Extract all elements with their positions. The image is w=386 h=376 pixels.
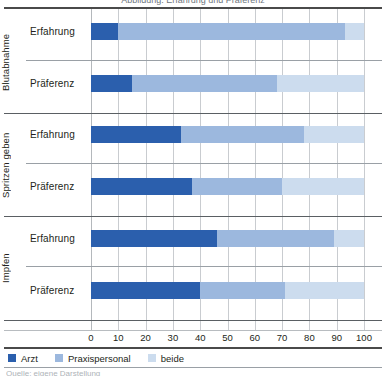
- bar-segment-beide[interactable]: [285, 282, 364, 299]
- x-tick-30: 30: [160, 332, 186, 343]
- bar-segment-praxispersonal[interactable]: [217, 230, 334, 247]
- bar-segment-praxispersonal[interactable]: [192, 178, 282, 195]
- group-separator: [4, 216, 382, 217]
- legend-top-rule: [4, 347, 382, 349]
- figure-caption: Quelle: eigene Darstellung: [6, 369, 306, 376]
- row-label-erfahrung: Erfahrung: [30, 233, 88, 244]
- row-separator: [26, 163, 382, 164]
- group-label-1: Blutabnahme: [0, 12, 16, 112]
- stacked-bar-chart: Abbildung: Erfahrung und Präferenz Bluta…: [0, 0, 386, 376]
- chart-top-rule: [4, 7, 382, 9]
- bar-segment-arzt[interactable]: [91, 230, 217, 247]
- bar-row[interactable]: [91, 282, 364, 299]
- legend-swatch-icon: [148, 354, 156, 362]
- legend-label: Praxispersonal: [68, 353, 131, 364]
- bar-segment-beide[interactable]: [277, 75, 364, 92]
- bar-segment-praxispersonal[interactable]: [132, 75, 277, 92]
- group-label-3: Impfen: [0, 218, 16, 318]
- bar-segment-arzt[interactable]: [91, 23, 118, 40]
- group-separator: [4, 320, 382, 321]
- bar-segment-praxispersonal[interactable]: [181, 126, 304, 143]
- bar-row[interactable]: [91, 23, 364, 40]
- row-label-erfahrung: Erfahrung: [30, 129, 88, 140]
- bar-segment-arzt[interactable]: [91, 178, 192, 195]
- bar-segment-praxispersonal[interactable]: [200, 282, 285, 299]
- x-tick-60: 60: [242, 332, 268, 343]
- bar-segment-arzt[interactable]: [91, 126, 181, 143]
- x-tick-20: 20: [133, 332, 159, 343]
- bar-segment-beide[interactable]: [334, 230, 364, 247]
- x-tick-0: 0: [78, 332, 104, 343]
- bar-segment-praxispersonal[interactable]: [118, 23, 345, 40]
- legend-swatch-icon: [55, 354, 63, 362]
- bar-row[interactable]: [91, 178, 364, 195]
- x-tick-50: 50: [215, 332, 241, 343]
- bar-segment-beide[interactable]: [304, 126, 364, 143]
- legend-label: Arzt: [21, 353, 38, 364]
- legend-swatch-icon: [8, 354, 16, 362]
- x-tick-100: 100: [351, 332, 377, 343]
- group-label-2: Spritzen geben: [0, 115, 16, 215]
- bar-segment-beide[interactable]: [345, 23, 364, 40]
- gridline-100: [364, 9, 365, 330]
- x-tick-90: 90: [324, 332, 350, 343]
- row-separator: [26, 60, 382, 61]
- bar-segment-arzt[interactable]: [91, 75, 132, 92]
- row-label-präferenz: Präferenz: [30, 285, 88, 296]
- figure-title: Abbildung: Erfahrung und Präferenz: [0, 0, 386, 7]
- group-separator: [4, 113, 382, 114]
- legend-label: beide: [161, 353, 184, 364]
- axis-rule: [4, 330, 382, 331]
- bar-segment-arzt[interactable]: [91, 282, 200, 299]
- x-tick-10: 10: [105, 332, 131, 343]
- legend-item-arzt[interactable]: Arzt: [8, 353, 38, 364]
- row-label-präferenz: Präferenz: [30, 78, 88, 89]
- bar-row[interactable]: [91, 230, 364, 247]
- legend-item-beide[interactable]: beide: [148, 353, 184, 364]
- bar-segment-beide[interactable]: [282, 178, 364, 195]
- row-separator: [26, 266, 382, 267]
- legend-bottom-rule: [4, 367, 382, 368]
- bar-row[interactable]: [91, 75, 364, 92]
- row-label-erfahrung: Erfahrung: [30, 26, 88, 37]
- x-tick-80: 80: [296, 332, 322, 343]
- row-label-präferenz: Präferenz: [30, 181, 88, 192]
- legend-item-praxispersonal[interactable]: Praxispersonal: [55, 353, 131, 364]
- bar-row[interactable]: [91, 126, 364, 143]
- chart-legend: ArztPraxispersonalbeide: [8, 352, 201, 364]
- x-tick-40: 40: [187, 332, 213, 343]
- x-tick-70: 70: [269, 332, 295, 343]
